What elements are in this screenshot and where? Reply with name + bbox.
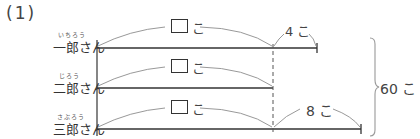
name-ichiro: 一郎さん: [53, 37, 105, 56]
extra-label-ichiro: 4 こ: [285, 21, 310, 40]
name-saburo: 三郎さん: [53, 119, 105, 138]
answer-box-ichiro[interactable]: [171, 19, 188, 33]
unit-jiro: こ: [192, 58, 205, 77]
answer-box-saburo[interactable]: [171, 100, 188, 114]
name-jiro: 二郎さん: [53, 78, 105, 97]
unit-saburo: こ: [192, 99, 205, 118]
extra-label-saburo: 8 こ: [306, 100, 333, 120]
total-label: 60 こ: [380, 78, 416, 98]
problem-number: (1): [6, 3, 36, 23]
answer-box-jiro[interactable]: [171, 59, 188, 73]
unit-ichiro: こ: [192, 18, 205, 37]
